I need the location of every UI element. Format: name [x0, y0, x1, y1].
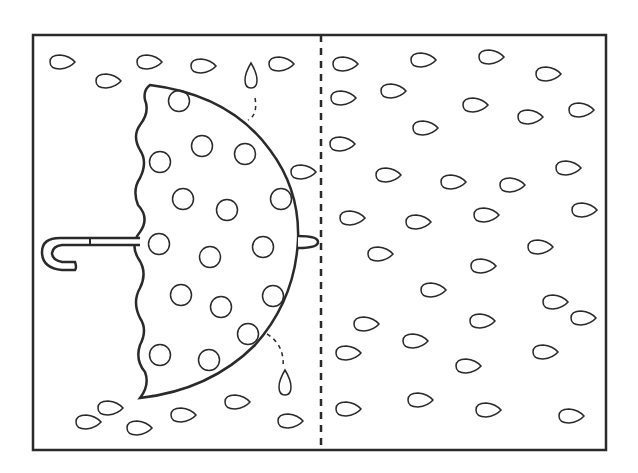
- raindrop-icon: [413, 121, 438, 135]
- raindrop-icon: [533, 345, 558, 359]
- raindrop-icon: [479, 50, 504, 64]
- raindrop-icon: [376, 168, 401, 182]
- raindrop-icon: [340, 211, 365, 225]
- raindrop-icon: [476, 403, 501, 417]
- raindrop-icon: [333, 57, 358, 71]
- raindrop-icon: [278, 414, 303, 428]
- raindrop-icon: [381, 84, 406, 98]
- raindrop-icon: [98, 401, 123, 415]
- raindrop-icon: [408, 393, 433, 407]
- raindrop-icon: [331, 91, 356, 105]
- raindrop-icon: [411, 53, 436, 67]
- raindrop-icon: [354, 317, 379, 331]
- raindrop-icon: [403, 334, 428, 348]
- raindrop-icon: [556, 161, 581, 175]
- raindrop-icon: [291, 165, 316, 179]
- raindrop-icon: [406, 215, 431, 229]
- drawing-canvas: [0, 0, 638, 473]
- raindrop-icon: [137, 55, 162, 69]
- raindrop-icon: [518, 110, 543, 124]
- raindrop-icon: [536, 67, 561, 81]
- raindrop-icon: [421, 283, 446, 297]
- raindrop-icon: [50, 55, 75, 69]
- raindrop-icon: [368, 247, 393, 261]
- umbrella-tip: [298, 236, 318, 248]
- raindrop-icon: [559, 409, 584, 423]
- raindrop-icon: [441, 175, 466, 189]
- raindrop-icon: [500, 178, 525, 192]
- raindrop-icon: [456, 359, 481, 373]
- raindrop-icon: [76, 415, 101, 429]
- raindrop-icon: [336, 346, 361, 360]
- raindrop-icon: [245, 63, 257, 88]
- raindrop-icon: [269, 57, 294, 71]
- raindrop-icon: [225, 395, 250, 409]
- raindrop-icon: [528, 240, 553, 254]
- raindrop-icon: [471, 259, 496, 273]
- raindrop-icon: [463, 98, 488, 112]
- raindrop-icon: [543, 295, 568, 309]
- raindrop-icon: [571, 311, 596, 325]
- drip-line: [248, 98, 256, 120]
- raindrop-icon: [127, 421, 152, 435]
- umbrella-symmetry-illustration: [0, 0, 638, 473]
- raindrop-icon: [569, 103, 594, 117]
- raindrop-icon: [171, 408, 196, 422]
- raindrop-icon: [470, 314, 495, 328]
- raindrop-icon: [191, 59, 216, 73]
- raindrop-icon: [96, 74, 121, 88]
- raindrop-icon: [474, 208, 499, 222]
- raindrop-icon: [336, 402, 361, 416]
- raindrop-icon: [572, 203, 597, 217]
- raindrop-icon: [279, 370, 291, 395]
- drip-line: [267, 334, 283, 368]
- raindrop-icon: [330, 137, 355, 151]
- umbrella-canopy: [134, 85, 298, 398]
